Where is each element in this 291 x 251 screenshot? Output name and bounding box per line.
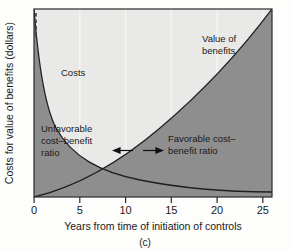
annotation-costs: Costs: [61, 67, 86, 78]
x-tick-label-0: 0: [31, 204, 37, 216]
annotation-favorable-line1: Favorable cost–: [168, 133, 236, 144]
annotation-value-of-benefits-line2: benefits: [202, 45, 236, 56]
figure-caption: (c): [139, 237, 151, 248]
x-axis-ticks: [34, 197, 263, 203]
annotation-unfavorable-line2: cost–benefit: [41, 135, 93, 146]
x-tick-label-5: 5: [77, 204, 83, 216]
annotation-unfavorable-line1: Unfavorable: [41, 123, 92, 134]
chart-svg: 0 5 10 15 20 25 Years from time of initi…: [0, 0, 291, 251]
annotation-unfavorable-line3: ratio: [41, 147, 59, 158]
x-tick-label-15: 15: [165, 204, 177, 216]
annotation-value-of-benefits-line1: Value of: [202, 33, 237, 44]
x-axis-title: Years from time of initiation of control…: [64, 220, 242, 232]
annotation-favorable-line2: benefit ratio: [168, 145, 218, 156]
x-tick-label-25: 25: [257, 204, 269, 216]
y-axis-title: Costs for value of benefits (dollars): [3, 22, 15, 184]
x-axis-tick-labels: 0 5 10 15 20 25: [31, 204, 269, 216]
x-tick-label-10: 10: [119, 204, 131, 216]
annotation-value-of-benefits: Value of benefits: [202, 33, 237, 56]
x-tick-label-20: 20: [211, 204, 223, 216]
figure-panel: 0 5 10 15 20 25 Years from time of initi…: [0, 0, 291, 251]
